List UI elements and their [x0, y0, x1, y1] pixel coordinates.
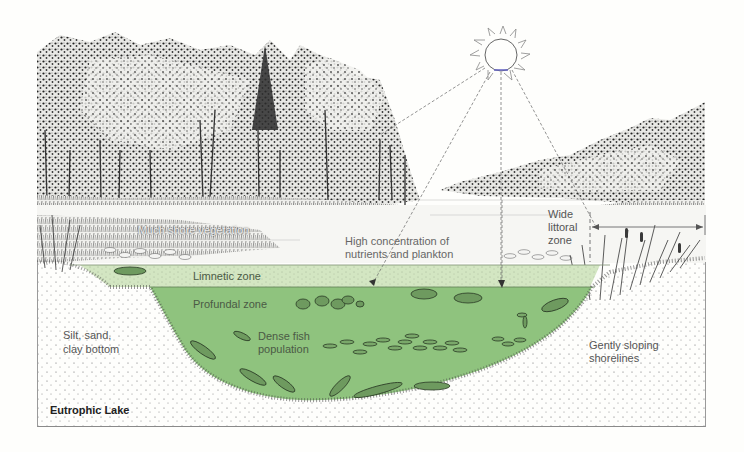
nutrients-label-line1: High concentration of [345, 235, 449, 248]
bottom-type-label-line1: Silt, sand, [63, 329, 111, 342]
forest-illustration-left [37, 32, 420, 216]
fish-population-label-line1: Dense fish [258, 330, 310, 343]
littoral-zone-label-line1: Wide [548, 208, 573, 221]
fish-population-label-line2: population [258, 343, 309, 356]
bottom-type-label-line2: clay bottom [63, 343, 119, 356]
limnetic-zone-label: Limnetic zone [193, 270, 261, 283]
shoreline-label-line2: shorelines [589, 352, 639, 365]
littoral-zone-label-line3: zone [548, 234, 572, 247]
littoral-zone-label-line2: littoral [548, 221, 577, 234]
figure-title: Eutrophic Lake [50, 404, 129, 417]
forest-illustration-right [440, 102, 705, 222]
profundal-zone-label: Profundal zone [193, 298, 267, 311]
shore-vegetation-label: Much shore vegetation [138, 224, 249, 237]
nutrients-label-line2: nutrients and plankton [345, 248, 453, 261]
shoreline-label-line1: Gently sloping [589, 339, 659, 352]
